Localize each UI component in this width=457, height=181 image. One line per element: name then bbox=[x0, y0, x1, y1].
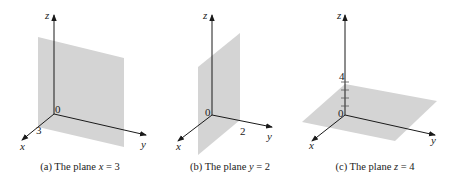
z-axis-label: z bbox=[202, 9, 208, 21]
plane-x-equals-3 bbox=[38, 37, 124, 147]
x-axis-label: x bbox=[19, 140, 25, 152]
origin-label: 0 bbox=[205, 106, 211, 118]
z-axis-label: z bbox=[44, 9, 50, 21]
origin-label: 0 bbox=[55, 103, 61, 115]
x-axis-label: x bbox=[308, 139, 314, 151]
z-axis-label: z bbox=[336, 9, 342, 21]
y-axis-label: y bbox=[140, 138, 146, 150]
panel-b: 0 2 z y x (b) The plane y = 2 bbox=[175, 9, 272, 173]
x-axis-label: x bbox=[175, 140, 181, 152]
z-value-label: 4 bbox=[339, 70, 345, 82]
y-axis-label: y bbox=[430, 134, 436, 146]
figure-canvas: 0 3 z y x (a) The plane x = 3 0 2 z y x … bbox=[0, 0, 457, 181]
panel-a: 0 3 z y x (a) The plane x = 3 bbox=[19, 9, 146, 173]
x-value-label: 3 bbox=[36, 124, 42, 136]
y-axis-label: y bbox=[266, 130, 272, 142]
panel-c: 4 0 z y x (c) The plane z = 4 bbox=[302, 9, 437, 173]
caption-b: (b) The plane y = 2 bbox=[190, 161, 270, 173]
caption-c: (c) The plane z = 4 bbox=[336, 161, 416, 173]
y-value-label: 2 bbox=[240, 125, 246, 137]
caption-a: (a) The plane x = 3 bbox=[40, 161, 120, 173]
plane-y-equals-2 bbox=[198, 33, 240, 155]
origin-label: 0 bbox=[338, 107, 344, 119]
